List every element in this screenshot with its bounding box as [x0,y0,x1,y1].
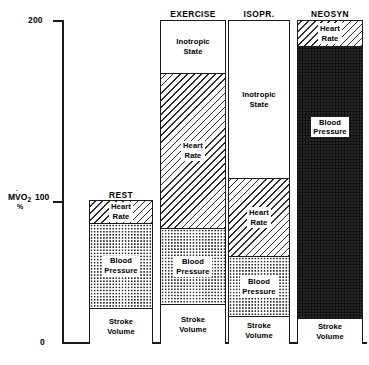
segment-label: Blood Pressure [311,117,349,137]
segment-label: Blood Pressure [174,256,212,276]
segment-label: Blood Pressure [102,256,140,276]
y-axis-title-subscript: 2 [27,196,31,203]
segment-neosyn-stroke-volume: Stroke Volume [298,318,362,345]
v-dot-icon: ˙ [16,190,19,198]
y-tick-label-100: 100 [35,192,49,202]
bar-neosyn: Heart Rate Blood Pressure Stroke Volume [297,20,363,344]
segment-label: Stroke Volume [179,315,206,334]
segment-label: Stroke Volume [245,321,272,340]
segment-rest-stroke-volume: Stroke Volume [90,308,152,345]
segment-label: Inotropic State [242,90,275,109]
segment-label: Heart Rate [109,202,134,222]
bar-title-exercise: EXERCISE [160,9,226,19]
y-axis-title-percent: % [17,203,23,210]
y-tick-0-text: 0 [40,337,45,347]
y-tick-label-0: 0 [40,337,45,347]
chart-figure: 200 0 MV˙O2100 % REST Heart Rate Blood P… [0,0,369,365]
y-tick-200-text: 200 [28,15,43,25]
bar-isopr: Inotropic State Heart Rate Blood Pressur… [228,20,290,344]
bar-title-isopr: ISOPR. [228,9,290,19]
segment-isopr-blood-pressure: Blood Pressure [229,256,289,316]
segment-exercise-stroke-volume: Stroke Volume [161,304,225,345]
segment-label: Blood Pressure [240,276,278,296]
segment-label: Stroke Volume [316,322,343,341]
segment-isopr-inotropic-state: Inotropic State [229,21,289,178]
segment-label: Inotropic State [176,37,209,56]
segment-rest-blood-pressure: Blood Pressure [90,223,152,308]
y-tick-100-mark [53,201,62,203]
y-axis-title: MV˙O2100 [8,193,49,204]
segment-label: Heart Rate [181,141,206,161]
y-tick-200-mark [53,20,62,22]
bar-title-rest: REST [89,190,153,200]
segment-neosyn-blood-pressure: Blood Pressure [298,46,362,318]
segment-rest-heart-rate: Heart Rate [90,201,152,223]
bar-exercise: Inotropic State Heart Rate Blood Pressur… [160,20,226,344]
segment-neosyn-heart-rate: Heart Rate [298,21,362,46]
y-tick-label-200: 200 [28,15,43,25]
bar-title-neosyn: NEOSYN [297,9,363,19]
segment-isopr-stroke-volume: Stroke Volume [229,316,289,345]
segment-isopr-heart-rate: Heart Rate [229,178,289,256]
y-axis-title-mvo2: MV˙O2 [8,193,31,204]
y-axis-line [62,20,64,344]
bar-rest: Heart Rate Blood Pressure Stroke Volume [89,200,153,344]
segment-exercise-blood-pressure: Blood Pressure [161,228,225,304]
segment-label: Stroke Volume [107,317,134,336]
segment-label: Heart Rate [318,23,343,43]
segment-label: Heart Rate [247,207,272,227]
segment-exercise-heart-rate: Heart Rate [161,73,225,228]
segment-exercise-inotropic-state: Inotropic State [161,21,225,73]
